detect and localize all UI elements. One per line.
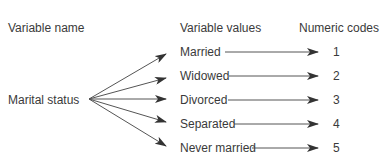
fan-arrow-never-married (89, 99, 166, 146)
header-variable-values: Variable values (180, 21, 261, 35)
header-numeric-codes: Numeric codes (299, 21, 379, 35)
code-3: 3 (333, 93, 340, 107)
code-5: 5 (333, 141, 340, 155)
code-1: 1 (333, 45, 340, 59)
value-married: Married (180, 45, 221, 59)
code-4: 4 (333, 117, 340, 131)
value-widowed: Widowed (180, 69, 229, 83)
variable-label: Marital status (8, 93, 79, 107)
code-2: 2 (333, 69, 340, 83)
value-separated: Separated (180, 117, 235, 131)
value-divorced: Divorced (180, 93, 227, 107)
header-variable-name: Variable name (8, 21, 85, 35)
fan-arrow-widowed (89, 78, 166, 99)
fan-arrow-separated (89, 99, 166, 122)
value-never-married: Never married (180, 141, 256, 155)
fan-arrow-married (89, 54, 166, 99)
